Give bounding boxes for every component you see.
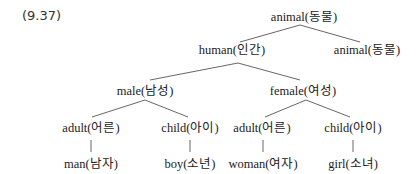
node-boy: boy(소년) bbox=[164, 157, 215, 171]
node-animal: animal(동물) bbox=[334, 43, 400, 57]
node-girl: girl(소녀) bbox=[328, 157, 378, 171]
tree-edges bbox=[0, 0, 417, 174]
edge-root-human bbox=[240, 25, 300, 42]
node-female-child: child(아이) bbox=[324, 121, 381, 135]
node-male-child: child(아이) bbox=[161, 121, 218, 135]
edge-female-child bbox=[306, 100, 350, 117]
node-male: male(남성) bbox=[117, 84, 174, 98]
edge-root-animal bbox=[300, 25, 360, 42]
node-man: man(남자) bbox=[64, 157, 118, 171]
node-human: human(인간) bbox=[199, 43, 265, 57]
edge-male-child bbox=[145, 100, 188, 117]
node-female: female(여성) bbox=[270, 84, 336, 98]
node-male-adult: adult(어른) bbox=[62, 121, 119, 135]
node-woman: woman(여자) bbox=[228, 157, 297, 171]
edge-human-male bbox=[150, 63, 238, 80]
edge-human-female bbox=[238, 63, 300, 80]
edge-female-adult bbox=[265, 100, 306, 117]
node-root-animal: animal(동물) bbox=[271, 10, 337, 24]
node-female-adult: adult(어른) bbox=[233, 121, 290, 135]
edge-male-adult bbox=[92, 100, 145, 117]
